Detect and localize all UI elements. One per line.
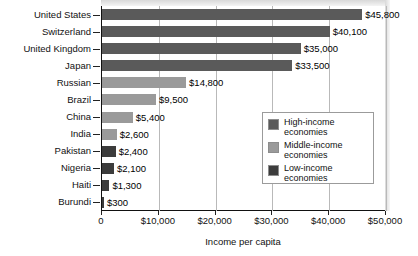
bar-value-label: $33,500: [295, 60, 329, 71]
bar-value-label: $5,400: [136, 112, 165, 123]
bar-value-label: $300: [107, 197, 128, 208]
value-tick-label: $30,000: [241, 216, 301, 226]
category-label: United Kingdom: [23, 44, 91, 54]
legend-item-middle: Middle-income economies: [268, 141, 369, 160]
bar-value-label: $9,500: [159, 94, 188, 105]
category-tick: [93, 151, 100, 152]
bar: [102, 43, 301, 54]
legend-label: High-income economies: [284, 118, 369, 137]
value-tick-label: $40,000: [298, 216, 358, 226]
bar: [102, 163, 114, 174]
bar: [102, 129, 117, 140]
legend-label: Low-income economies: [284, 164, 369, 183]
category-tick: [93, 168, 100, 169]
bar: [102, 197, 104, 208]
bar: [102, 60, 292, 71]
value-axis-title: Income per capita: [101, 236, 385, 247]
category-label: Russian: [57, 78, 91, 88]
bar-value-label: $2,100: [117, 163, 146, 174]
category-tick: [93, 49, 100, 50]
legend-swatch-middle: [268, 142, 279, 153]
value-tick-label: 0: [71, 216, 131, 226]
category-label: Switzerland: [42, 27, 91, 37]
income-per-capita-bar-chart: United StatesSwitzerlandUnited KingdomJa…: [0, 0, 418, 256]
category-label: India: [70, 129, 91, 139]
bar-value-label: $35,000: [304, 43, 338, 54]
category-label: Nigeria: [61, 163, 91, 173]
bar-value-label: $2,600: [120, 129, 149, 140]
category-label: Pakistan: [55, 146, 91, 156]
category-tick: [93, 185, 100, 186]
category-label: Burundi: [58, 197, 91, 207]
value-tick-label: $50,000: [355, 216, 415, 226]
legend: High-income economiesMiddle-income econo…: [262, 112, 374, 184]
legend-item-low: Low-income economies: [268, 164, 369, 183]
legend-swatch-low: [268, 165, 279, 176]
bar: [102, 94, 156, 105]
category-label: Japan: [65, 61, 91, 71]
bar: [102, 180, 109, 191]
category-label: Haiti: [72, 180, 91, 190]
bar-value-label: $1,300: [112, 180, 141, 191]
legend-swatch-high: [268, 119, 279, 130]
bar: [102, 112, 133, 123]
category-tick: [93, 15, 100, 16]
category-label: Brazil: [67, 95, 91, 105]
legend-item-high: High-income economies: [268, 118, 369, 137]
bar: [102, 146, 116, 157]
bar-value-label: $2,400: [119, 146, 148, 157]
category-label: United States: [34, 10, 91, 20]
category-tick: [93, 134, 100, 135]
bar: [102, 9, 362, 20]
gridline: [386, 6, 387, 211]
category-tick: [93, 117, 100, 118]
category-tick: [93, 202, 100, 203]
bar: [102, 26, 330, 37]
category-tick: [93, 100, 100, 101]
value-tick-label: $20,000: [185, 216, 245, 226]
category-axis-labels: United StatesSwitzerlandUnited KingdomJa…: [0, 0, 91, 211]
category-label: China: [66, 112, 91, 122]
bar-value-label: $45,800: [365, 9, 399, 20]
bar-value-label: $14,800: [189, 77, 223, 88]
value-tick-label: $10,000: [128, 216, 188, 226]
category-tick: [93, 32, 100, 33]
bar-value-label: $40,100: [333, 26, 367, 37]
category-tick: [93, 66, 100, 67]
legend-label: Middle-income economies: [284, 141, 369, 160]
category-tick: [93, 83, 100, 84]
bar: [102, 77, 186, 88]
